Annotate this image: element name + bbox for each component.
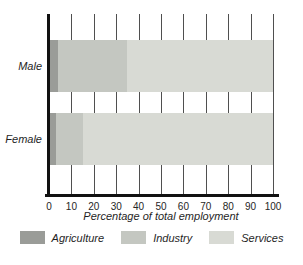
bar-row-female: Female: [49, 113, 273, 165]
bar-row-male: Male: [49, 40, 273, 92]
legend-swatch-services: [209, 231, 234, 244]
segment-female-industry: [56, 113, 83, 165]
segment-female-agriculture: [49, 113, 56, 165]
category-label-female: Female: [5, 113, 42, 165]
x-axis-title: Percentage of total employment: [49, 210, 273, 222]
category-label-male: Male: [18, 40, 42, 92]
legend-item-industry: Industry: [121, 231, 192, 244]
y-axis-line: [47, 14, 50, 197]
gridline-100: [273, 14, 274, 195]
legend-item-agriculture: Agriculture: [20, 231, 105, 244]
segment-male-industry: [58, 40, 127, 92]
segment-male-services: [127, 40, 273, 92]
legend-label-services: Services: [241, 232, 283, 244]
segment-female-services: [83, 113, 273, 165]
legend-item-services: Services: [209, 231, 283, 244]
segment-male-agriculture: [49, 40, 58, 92]
employment-stacked-bar-chart: MaleFemale 0102030405060708090100 Percen…: [0, 0, 303, 265]
legend-label-agriculture: Agriculture: [52, 232, 105, 244]
legend: AgricultureIndustryServices: [0, 231, 303, 244]
legend-label-industry: Industry: [153, 232, 192, 244]
x-axis-line: [45, 194, 279, 197]
legend-swatch-industry: [121, 231, 146, 244]
legend-swatch-agriculture: [20, 231, 45, 244]
plot-area: MaleFemale 0102030405060708090100: [49, 14, 273, 195]
